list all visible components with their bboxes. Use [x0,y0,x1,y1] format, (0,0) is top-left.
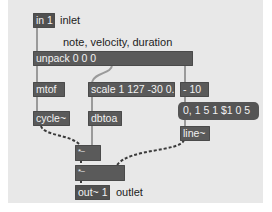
unpack-object[interactable]: unpack 0 0 0 [33,51,193,66]
multiply-signal-object-2[interactable]: *~ [75,165,125,181]
mtof-object[interactable]: mtof [33,82,65,97]
inlet-object[interactable]: in 1 [33,13,55,28]
dbtoa-object[interactable]: dbtoa [88,111,122,126]
multiply-signal-object-1[interactable]: *~ [75,145,101,161]
minus-object[interactable]: - 10 [180,82,209,97]
scale-object[interactable]: scale 1 127 -30 0. [88,82,175,97]
message-box[interactable]: 0, 1 5 1 $1 0 5 [178,102,259,120]
unpack-comment: note, velocity, duration [63,35,172,49]
outlet-comment: outlet [116,185,143,199]
cycle-object[interactable]: cycle~ [33,111,70,126]
inlet-comment: inlet [60,13,80,27]
line-object[interactable]: line~ [180,126,210,141]
outlet-object[interactable]: out~ 1 [75,185,110,200]
